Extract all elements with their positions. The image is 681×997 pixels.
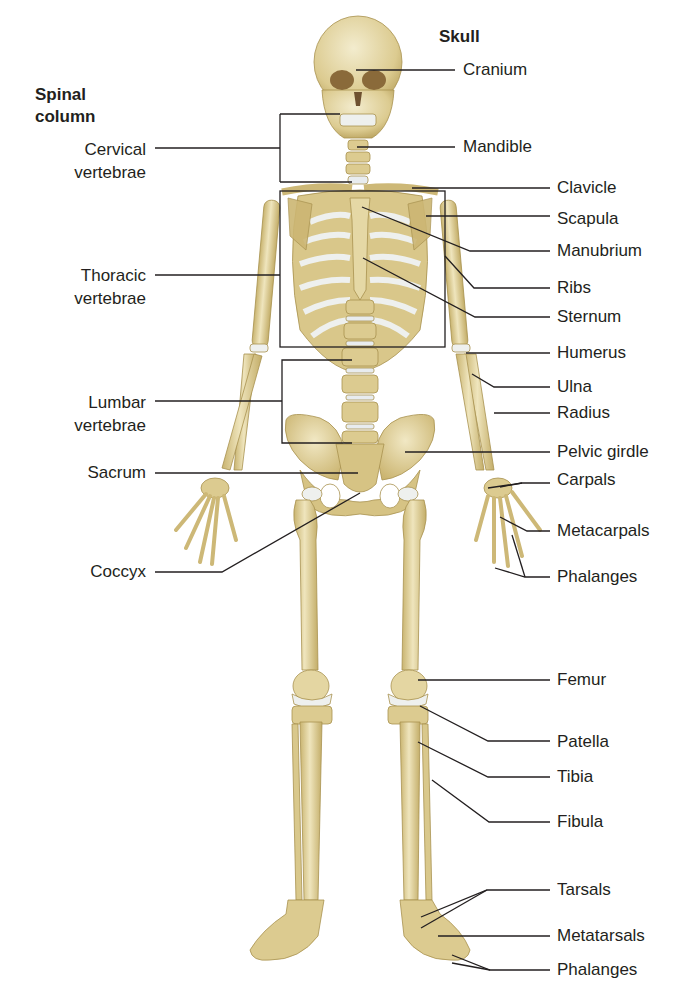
- label-cranium: Cranium: [463, 59, 527, 81]
- arm-right: [440, 200, 540, 566]
- label-femur: Femur: [557, 669, 606, 691]
- label-thoracic-line1: Thoracic: [74, 264, 146, 287]
- label-sternum: Sternum: [557, 306, 621, 328]
- label-pelvic-girdle: Pelvic girdle: [557, 441, 649, 463]
- label-coccyx: Coccyx: [90, 561, 146, 583]
- label-metatarsals: Metatarsals: [557, 925, 645, 947]
- label-lumbar-vertebrae: Lumbar vertebrae: [74, 391, 146, 437]
- label-ribs: Ribs: [557, 277, 591, 299]
- label-phalanges-hand: Phalanges: [557, 566, 637, 588]
- label-sacrum: Sacrum: [87, 462, 146, 484]
- label-radius: Radius: [557, 402, 610, 424]
- label-lumbar-line1: Lumbar: [74, 391, 146, 414]
- label-manubrium: Manubrium: [557, 240, 642, 262]
- label-cervical-vertebrae: Cervical vertebrae: [74, 138, 146, 184]
- skull: [314, 16, 402, 138]
- spinal-column-heading: Spinal column: [35, 84, 95, 128]
- label-clavicle: Clavicle: [557, 177, 617, 199]
- label-ulna: Ulna: [557, 376, 592, 398]
- label-phalanges-foot: Phalanges: [557, 959, 637, 981]
- label-scapula: Scapula: [557, 208, 618, 230]
- label-tibia: Tibia: [557, 766, 593, 788]
- label-thoracic-vertebrae: Thoracic vertebrae: [74, 264, 146, 310]
- label-lumbar-line2: vertebrae: [74, 414, 146, 437]
- label-thoracic-line2: vertebrae: [74, 287, 146, 310]
- label-tarsals: Tarsals: [557, 879, 611, 901]
- spinal-column-heading-line1: Spinal: [35, 84, 95, 106]
- spinal-column-heading-line2: column: [35, 106, 95, 128]
- label-cervical-line1: Cervical: [74, 138, 146, 161]
- leg-left: [250, 500, 332, 960]
- label-mandible: Mandible: [463, 136, 532, 158]
- label-carpals: Carpals: [557, 469, 616, 491]
- skull-heading: Skull: [439, 26, 480, 48]
- label-metacarpals: Metacarpals: [557, 520, 650, 542]
- label-patella: Patella: [557, 731, 609, 753]
- arm-left: [176, 200, 280, 564]
- leg-right: [388, 500, 470, 960]
- label-cervical-line2: vertebrae: [74, 161, 146, 184]
- label-humerus: Humerus: [557, 342, 626, 364]
- label-fibula: Fibula: [557, 811, 603, 833]
